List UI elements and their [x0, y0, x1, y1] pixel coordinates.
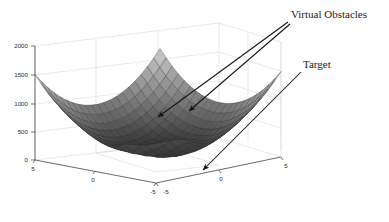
x-tick-label-neg5: -5 [163, 188, 169, 195]
z-axis-ticks [31, 46, 35, 160]
arrow-virtual-obstacle-1 [158, 22, 288, 117]
surface-face [269, 72, 281, 88]
y-tick-label-neg5: -5 [150, 188, 156, 195]
figure-canvas: 2000 1500 1000 500 0 5 0 -5 -5 0 5 [0, 0, 389, 222]
z-tick-label-1000: 1000 [14, 100, 28, 107]
y-tick-label-0: 0 [91, 176, 95, 183]
surface-mesh [35, 49, 281, 158]
z-tick-label-1500: 1500 [14, 71, 28, 78]
x-tick-label-5: 5 [284, 162, 288, 169]
surface-face [41, 81, 53, 96]
y-tick-label-5: 5 [31, 165, 35, 172]
surface-face [35, 75, 47, 91]
x-tick-label-0: 0 [219, 175, 223, 182]
z-tick-label-2000: 2000 [14, 42, 28, 49]
z-tick-label-500: 500 [18, 128, 29, 135]
label-virtual-obstacles: Virtual Obstacles [291, 8, 367, 20]
label-target: Target [303, 58, 331, 70]
z-tick-label-0: 0 [25, 156, 29, 163]
surface-face [257, 85, 269, 100]
surface-plot: 2000 1500 1000 500 0 5 0 -5 -5 0 5 [0, 0, 389, 222]
surface-face [263, 78, 275, 94]
y-axis-line [35, 160, 156, 183]
